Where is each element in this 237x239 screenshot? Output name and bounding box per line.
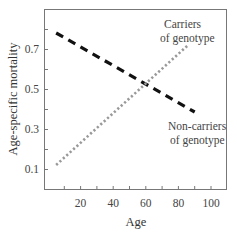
- axis-ticks: [45, 30, 212, 190]
- x-axis-title: Age: [126, 215, 147, 229]
- chart: 204060801000.10.30.50.7 Carriers of geno…: [0, 0, 237, 239]
- x-tick-label: 60: [140, 197, 152, 209]
- y-tick-label: 0.1: [25, 163, 40, 175]
- y-tick-label: 0.7: [25, 43, 40, 55]
- y-tick-label: 0.3: [25, 123, 40, 135]
- y-axis-title: Age-specific mortality: [6, 42, 20, 156]
- y-tick-label: 0.5: [25, 83, 40, 95]
- carriers-dotted-line: [56, 45, 188, 165]
- x-tick-label: 20: [75, 197, 87, 209]
- x-tick-label: 100: [202, 197, 220, 209]
- carriers-label-line1: Carriers: [164, 18, 202, 30]
- noncarriers-label-line1: Non-carriers: [168, 120, 227, 132]
- carriers-label-line2: of genotype: [160, 32, 215, 45]
- x-tick-label: 40: [107, 197, 119, 209]
- x-tick-label: 80: [173, 197, 185, 209]
- noncarriers-label-line2: of genotype: [170, 134, 225, 147]
- noncarriers-dashed-line: [56, 33, 195, 112]
